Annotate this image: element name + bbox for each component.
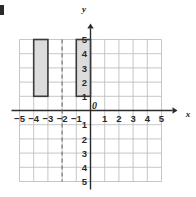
- x-tick-label: −2: [57, 113, 68, 124]
- x-tick-label: 4: [145, 113, 151, 124]
- y-tick-label: 3: [82, 63, 87, 74]
- x-tick-label: 3: [130, 113, 135, 124]
- y-tick-label: 2: [82, 134, 87, 145]
- y-tick-label: 4: [82, 162, 88, 173]
- x-tick-label: −3: [42, 113, 53, 124]
- coordinate-plane-svg: −5−4−3−2−1123455432112345 x y 0: [0, 0, 196, 197]
- y-tick-label: 5: [82, 176, 88, 187]
- y-tick-label: 3: [82, 148, 87, 159]
- x-tick-label: 5: [159, 113, 165, 124]
- y-tick-label: 2: [82, 77, 87, 88]
- y-tick-label: 5: [82, 34, 88, 45]
- y-tick-label: 4: [82, 48, 88, 59]
- x-axis-arrow-icon: [173, 107, 178, 113]
- x-tick-label: 1: [102, 113, 108, 124]
- y-tick-label: 1: [82, 91, 88, 102]
- x-axis-label: x: [185, 109, 191, 119]
- x-tick-label: −1: [71, 113, 83, 124]
- origin-label: 0: [92, 100, 97, 111]
- y-tick-label: 1: [82, 119, 88, 130]
- y-axis-label: y: [81, 4, 87, 14]
- left-rectangle: [34, 40, 48, 97]
- y-axis-arrow-icon: [87, 24, 93, 29]
- x-tick-label: 2: [116, 113, 121, 124]
- x-tick-label: −5: [14, 113, 26, 124]
- x-tick-label: −4: [28, 113, 40, 124]
- coordinate-plane-figure: −5−4−3−2−1123455432112345 x y 0: [0, 0, 196, 197]
